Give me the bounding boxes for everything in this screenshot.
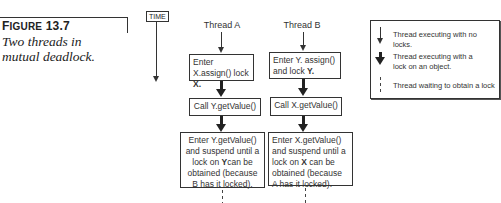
caption-rule [0, 17, 128, 18]
waiting-dashed-line [222, 190, 223, 203]
thread-b-step-1: Enter Y. assign() and lock Y. [269, 52, 341, 79]
thick-arrow-icon [216, 124, 226, 132]
thread-b-step-3: Enter X.getValue() and suspend until a l… [268, 132, 353, 186]
thread-a-label: Thread A [192, 20, 252, 30]
legend-item-with-lock: Thread executing with a lock on an objec… [393, 52, 483, 72]
step-text: Enter X.assign() lock [193, 57, 249, 78]
time-axis-line [156, 21, 157, 77]
lock-name: X. [193, 79, 201, 89]
thread-a-arrow-line-1 [221, 32, 222, 48]
thick-arrow-icon [375, 57, 385, 65]
thread-a-step-1: Enter X.assign() lock X. [189, 54, 254, 81]
figure-label-prefix: F [2, 19, 10, 33]
thin-arrow-icon [377, 38, 383, 44]
figure-label: FIGURE 13.7 [2, 19, 70, 33]
dashed-line-icon [380, 77, 381, 93]
figure-number: 13.7 [46, 19, 70, 33]
legend-item-no-locks: Thread executing with no locks. [393, 30, 497, 50]
step-text: Enter Y. assign() and lock [273, 55, 335, 76]
caption-rule-tick [127, 17, 128, 33]
thread-a-step-3: Enter Y.getValue() and suspend until a l… [180, 132, 265, 188]
time-arrow-icon [153, 76, 159, 82]
thread-b-step-2: Call X.getValue() [270, 97, 342, 116]
thin-arrow-icon [300, 45, 306, 51]
legend-item-waiting: Thread waiting to obtain a lock [393, 81, 497, 91]
time-label: TIME [146, 11, 169, 22]
thick-arrow-icon [298, 88, 308, 96]
thick-arrow-icon [298, 124, 308, 132]
thin-arrow-icon [218, 47, 224, 53]
figure-label-rest: IGURE [10, 21, 43, 32]
waiting-dashed-line [305, 188, 306, 203]
lock-name: Y. [307, 66, 314, 76]
thread-b-label: Thread B [272, 20, 332, 30]
legend: Thread executing with no locks. Thread e… [370, 20, 500, 99]
thread-b-arrow-line-1 [303, 32, 304, 46]
figure-description: Two threads in mutual deadlock. [2, 34, 112, 64]
thread-a-step-2: Call Y.getValue() [189, 98, 261, 116]
thick-arrow-icon [216, 89, 226, 97]
